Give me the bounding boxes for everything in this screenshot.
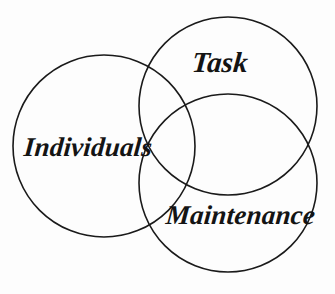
circle-task — [139, 17, 317, 195]
circle-label-individuals: Individuals — [23, 134, 154, 161]
circle-maintenance — [139, 94, 317, 272]
circle-label-task: Task — [191, 48, 250, 77]
circle-label-maintenance: Maintenance — [165, 202, 317, 229]
venn-diagram: Individuals Task Maintenance — [0, 0, 335, 294]
